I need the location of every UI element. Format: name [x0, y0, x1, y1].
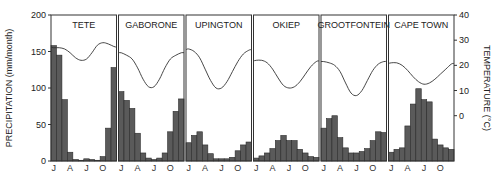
- precip-tick-label: 200: [31, 10, 46, 20]
- precip-bar: [348, 153, 353, 161]
- precip-bar: [202, 145, 207, 161]
- precip-bar: [321, 128, 326, 161]
- precip-bar: [394, 149, 399, 161]
- precip-bar: [399, 148, 404, 161]
- temperature-curve: [119, 53, 185, 88]
- precip-bar: [186, 143, 191, 161]
- precip-bar: [416, 89, 421, 161]
- precip-bar: [427, 102, 432, 161]
- precip-bar: [140, 153, 145, 161]
- station-name: UPINGTON: [195, 20, 242, 30]
- precipitation-axis-title: PRECIPITATION (mm/month): [4, 29, 14, 148]
- precip-bar: [135, 133, 140, 161]
- month-label: J: [119, 163, 124, 173]
- precip-bar: [241, 145, 246, 161]
- month-label: O: [437, 163, 444, 173]
- temperature-curve: [186, 49, 252, 89]
- precip-bar: [292, 141, 297, 161]
- precip-bar: [421, 100, 426, 161]
- precip-bar: [376, 132, 381, 161]
- precipitation-axis: 050100150200: [31, 10, 51, 166]
- precip-bar: [443, 148, 448, 161]
- precip-bar: [191, 135, 196, 161]
- precip-bar: [303, 153, 308, 161]
- precip-bar: [281, 135, 286, 161]
- temperature-axis-title: TEMPERATURE (°C): [482, 45, 492, 131]
- precip-bar: [246, 142, 251, 161]
- station-panel-gaborone: GABORONEJAJO: [119, 15, 185, 173]
- month-label: J: [321, 163, 326, 173]
- precip-bar: [432, 139, 437, 161]
- precip-bar: [230, 157, 235, 161]
- month-label: O: [234, 163, 241, 173]
- precip-bar: [359, 152, 364, 161]
- precip-bar: [67, 152, 72, 161]
- month-label: A: [202, 163, 208, 173]
- precip-bar: [259, 156, 264, 161]
- precip-bar: [129, 108, 134, 161]
- precip-bar: [111, 68, 116, 161]
- precip-bar: [438, 145, 443, 161]
- month-label: J: [389, 163, 394, 173]
- month-label: J: [354, 163, 359, 173]
- precip-bar: [62, 100, 67, 161]
- precip-tick-label: 150: [31, 47, 46, 57]
- temperature-curve: [321, 61, 387, 95]
- precip-bar: [51, 46, 56, 161]
- month-label: J: [186, 163, 191, 173]
- precip-bar: [337, 138, 342, 161]
- precip-bar: [343, 148, 348, 161]
- precip-bar: [326, 119, 331, 161]
- temp-tick-label: 20: [459, 60, 469, 70]
- temp-tick-label: 10: [459, 86, 469, 96]
- station-panel-upington: UPINGTONJAJO: [186, 15, 252, 173]
- temp-tick-label: 40: [459, 10, 469, 20]
- station-panels: TETEJAJOGABORONEJAJOUPINGTONJAJOOKIEPJAJ…: [51, 15, 454, 173]
- month-label: O: [99, 163, 106, 173]
- precip-bar: [100, 157, 105, 161]
- temp-tick-label: 0: [459, 111, 464, 121]
- precip-tick-label: 100: [31, 83, 46, 93]
- month-label: A: [405, 163, 411, 173]
- precip-bar: [179, 99, 184, 161]
- month-label: J: [287, 163, 292, 173]
- station-name: OKIEP: [272, 20, 300, 30]
- precip-bar: [286, 141, 291, 161]
- precip-bar: [208, 154, 213, 161]
- precip-bar: [235, 151, 240, 161]
- precip-bar: [56, 55, 61, 161]
- precip-bar: [405, 126, 410, 161]
- temperature-axis: 010203040: [454, 10, 469, 121]
- precip-bar: [168, 132, 173, 161]
- precip-bar: [124, 100, 129, 161]
- month-label: J: [152, 163, 157, 173]
- precip-bar: [389, 152, 394, 161]
- precip-bar: [162, 153, 167, 161]
- station-panel-grootfontein: GROOTFONTEINJAJO: [318, 15, 391, 173]
- precip-bar: [354, 153, 359, 161]
- station-panel-tete: TETEJAJO: [51, 15, 117, 173]
- station-name: CAPE TOWN: [394, 20, 448, 30]
- precip-bar: [197, 132, 202, 161]
- precip-bar: [264, 153, 269, 161]
- month-label: A: [337, 163, 343, 173]
- month-label: O: [167, 163, 174, 173]
- precip-bar: [410, 104, 415, 161]
- precip-bar: [381, 133, 386, 161]
- temperature-curve: [389, 63, 455, 85]
- month-label: J: [51, 163, 56, 173]
- month-label: J: [219, 163, 224, 173]
- month-label: A: [135, 163, 141, 173]
- station-name: TETE: [72, 20, 95, 30]
- climate-chart: 050100150200 010203040 TETEJAJOGABORONEJ…: [0, 0, 496, 185]
- temp-tick-label: 30: [459, 35, 469, 45]
- precip-bar: [314, 157, 319, 161]
- station-panel-okiep: OKIEPJAJO: [254, 15, 320, 173]
- precip-bar: [308, 157, 313, 161]
- month-label: O: [302, 163, 309, 173]
- precip-tick-label: 0: [41, 156, 46, 166]
- precip-tick-label: 50: [36, 120, 46, 130]
- month-label: O: [369, 163, 376, 173]
- station-name: GABORONE: [125, 20, 177, 30]
- precip-bar: [173, 111, 178, 161]
